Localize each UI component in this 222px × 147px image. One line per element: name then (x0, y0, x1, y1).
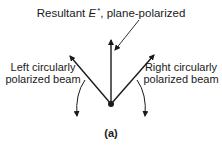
right-rotation-arrow (137, 80, 145, 116)
figure-caption: (a) (0, 127, 222, 139)
left-rotation-arrow (77, 80, 85, 116)
right-beam-label-line2: polarized beam (142, 73, 220, 85)
title-leader-line (115, 20, 139, 50)
left-beam-label-line2: polarized beam (4, 73, 82, 85)
resultant-title: Resultant E*, plane-polarized (0, 5, 222, 19)
right-beam-label-line1: Right circularly (142, 61, 220, 73)
left-beam-label: Left circularly polarized beam (4, 61, 82, 85)
left-beam-label-line1: Left circularly (4, 61, 82, 73)
origin-dot (108, 101, 114, 107)
title-suffix: , plane-polarized (100, 7, 185, 19)
title-prefix: Resultant (37, 7, 89, 19)
right-beam-label: Right circularly polarized beam (142, 61, 220, 85)
title-symbol: E (88, 7, 96, 19)
